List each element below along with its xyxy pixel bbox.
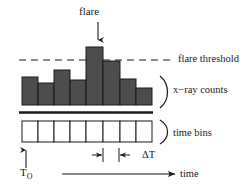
flare-timing-diagram: flare flare threshold x−ray counts time … xyxy=(0,0,251,188)
t-zero-base: T xyxy=(20,166,27,178)
xray-counts-brace xyxy=(160,76,168,108)
histogram-bar xyxy=(54,70,70,105)
histogram-bar xyxy=(103,61,120,105)
time-bins-row xyxy=(22,121,152,142)
xray-counts-label: x−ray counts xyxy=(173,85,228,96)
time-bin-cell xyxy=(120,121,136,142)
time-axis-label: time xyxy=(180,169,199,180)
time-bins-label: time bins xyxy=(173,128,212,139)
time-bin-cell xyxy=(70,121,86,142)
t-zero-label: TO xyxy=(20,167,33,181)
time-bin-cell xyxy=(54,121,70,142)
flare-label: flare xyxy=(79,6,99,17)
time-bin-cell xyxy=(22,121,38,142)
delta-t-label: ΔT xyxy=(142,150,155,161)
histogram-bar xyxy=(70,80,86,105)
time-bin-cell xyxy=(103,121,120,142)
time-bin-cell xyxy=(136,121,152,142)
histogram-bar xyxy=(136,88,152,105)
time-bin-cell xyxy=(86,121,103,142)
time-bins-brace xyxy=(160,120,168,144)
delta-t-span xyxy=(92,148,130,162)
histogram-bar xyxy=(120,79,136,105)
xray-counts-histogram xyxy=(22,47,152,105)
time-bin-cell xyxy=(38,121,54,142)
histogram-bar xyxy=(38,83,54,105)
histogram-bar xyxy=(22,77,38,105)
flare-threshold-label: flare threshold xyxy=(178,54,239,65)
histogram-bar xyxy=(86,47,103,105)
t-zero-subscript: O xyxy=(27,172,33,181)
